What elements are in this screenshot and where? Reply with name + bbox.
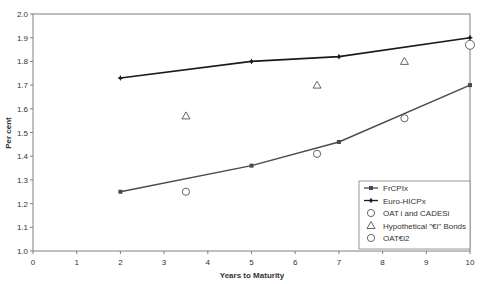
y-axis-title: Per cent	[4, 117, 13, 149]
triangle-marker-icon	[182, 112, 190, 119]
x-axis-title: Years to Maturity	[220, 271, 285, 280]
y-tick-label: 1.0	[17, 247, 29, 256]
series-0	[118, 83, 472, 194]
circle-marker-icon	[466, 40, 475, 49]
legend-label: Euro-HICPx	[383, 197, 426, 206]
y-tick-label: 1.1	[17, 223, 29, 232]
series-line	[120, 85, 470, 192]
x-tick-label: 0	[31, 258, 36, 267]
x-tick-label: 3	[162, 258, 167, 267]
y-tick-label: 1.6	[17, 105, 29, 114]
series-line	[120, 38, 470, 78]
yield-curve-chart: 1.01.11.21.31.41.51.61.71.81.92.00123456…	[0, 0, 482, 284]
square-marker-icon	[337, 140, 341, 144]
legend-label: Hypothetical "€i" Bonds	[383, 222, 466, 231]
legend-label: OAT i and CADESi	[383, 209, 450, 218]
y-tick-label: 1.4	[17, 152, 29, 161]
circle-marker-icon	[401, 115, 408, 122]
y-tick-label: 1.3	[17, 176, 29, 185]
x-tick-label: 7	[337, 258, 342, 267]
chart-canvas: 1.01.11.21.31.41.51.61.71.81.92.00123456…	[0, 0, 482, 284]
y-tick-label: 1.7	[17, 81, 29, 90]
x-tick-label: 10	[466, 258, 475, 267]
square-marker-icon	[468, 83, 472, 87]
circle-marker-icon	[367, 209, 374, 216]
y-tick-label: 1.2	[17, 200, 29, 209]
y-tick-label: 2.0	[17, 10, 29, 19]
circle-marker-icon	[313, 150, 320, 157]
legend: FrCPIxEuro-HICPxOAT i and CADESiHypothet…	[359, 181, 470, 249]
x-tick-label: 5	[249, 258, 254, 267]
x-tick-label: 6	[293, 258, 298, 267]
series-layer	[118, 35, 475, 195]
circle-marker-icon	[367, 234, 374, 241]
series-1	[118, 35, 473, 80]
triangle-marker-icon	[400, 57, 408, 64]
square-marker-icon	[118, 190, 122, 194]
series-4	[466, 40, 475, 49]
y-tick-label: 1.5	[17, 129, 29, 138]
circle-marker-icon	[182, 188, 189, 195]
y-tick-label: 1.8	[17, 57, 29, 66]
x-tick-label: 8	[380, 258, 385, 267]
legend-label: OAT€i2	[383, 234, 410, 243]
square-marker-icon	[369, 186, 373, 190]
x-tick-label: 4	[206, 258, 211, 267]
triangle-marker-icon	[313, 81, 321, 88]
y-tick-label: 1.9	[17, 34, 29, 43]
legend-label: FrCPIx	[383, 184, 408, 193]
x-tick-label: 1	[74, 258, 79, 267]
x-tick-label: 2	[118, 258, 123, 267]
square-marker-icon	[250, 164, 254, 168]
x-tick-label: 9	[424, 258, 429, 267]
